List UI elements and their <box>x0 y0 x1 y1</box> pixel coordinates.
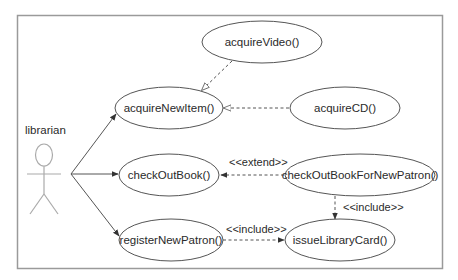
use-case-label: checkOutBookForNewPatron() <box>282 169 439 181</box>
extend-label: <<extend>> <box>229 156 288 168</box>
use-case-label: checkOutBook() <box>128 169 211 181</box>
use-case-label: issueLibraryCard() <box>293 234 388 246</box>
use-case-label: acquireCD() <box>314 102 376 114</box>
include-label-checkout: <<include>> <box>343 201 404 213</box>
use-case-check-out-book[interactable]: checkOutBook() <box>119 154 219 196</box>
actor-label: librarian <box>25 124 66 136</box>
use-case-acquire-video[interactable]: acquireVideo() <box>202 21 322 63</box>
include-label-register: <<include>> <box>226 223 287 235</box>
use-case-label: acquireVideo() <box>225 36 300 48</box>
use-case-label: registerNewPatron() <box>120 234 223 246</box>
use-case-register-new-patron[interactable]: registerNewPatron() <box>119 219 223 261</box>
use-case-acquire-cd[interactable]: acquireCD() <box>290 87 400 129</box>
use-case-issue-library-card[interactable]: issueLibraryCard() <box>285 219 395 261</box>
use-case-check-out-book-for-new-patron[interactable]: checkOutBookForNewPatron() <box>282 154 439 196</box>
use-case-label: acquireNewItem() <box>124 102 215 114</box>
use-case-diagram: librarian <<extend>> <<include>> <<inclu… <box>0 0 458 280</box>
use-case-acquire-new-item[interactable]: acquireNewItem() <box>115 87 223 129</box>
